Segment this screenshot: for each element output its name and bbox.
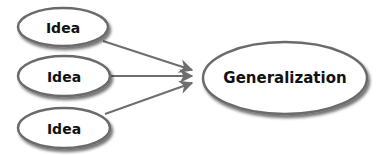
idea-node-2: Idea: [18, 56, 110, 96]
arrows: [103, 41, 192, 114]
generalization-node: Generalization: [203, 42, 367, 114]
idea-node-3: Idea: [18, 108, 110, 148]
idea-label: Idea: [47, 121, 81, 137]
idea-label: Idea: [47, 69, 81, 85]
arrow-idea-3-to-generalization: [105, 83, 192, 114]
idea-label: Idea: [46, 20, 80, 36]
diagram-canvas: Idea Idea Idea Generalization: [0, 0, 376, 155]
generalization-label: Generalization: [223, 69, 346, 87]
arrow-idea-1-to-generalization: [103, 41, 192, 70]
idea-node-1: Idea: [18, 8, 108, 46]
